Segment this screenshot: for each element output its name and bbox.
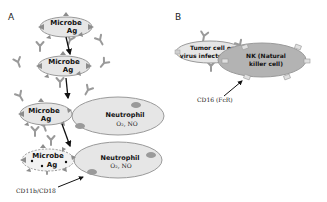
microbe-antigen-3: Microbe Ag [18,98,72,126]
svg-text:Neutrophil: Neutrophil [106,111,145,119]
svg-text:Microbe: Microbe [48,58,80,66]
cd16-caption: CD16 (FcR) [197,96,233,103]
microbe-antigen-2: Microbe Ag [36,51,92,78]
neutrophil-1: Neutrophil O₂, NO [72,97,164,135]
microbe-antigen-1: Microbe Ag [38,12,94,39]
svg-text:Microbe: Microbe [50,19,82,27]
panel-a-label: A [8,12,15,22]
cd11b-caption: CD11b/CD18 [16,187,56,194]
svg-text:Ag: Ag [47,161,57,169]
arrow [66,78,68,98]
svg-text:O₂, NO: O₂, NO [110,162,131,169]
svg-text:Microbe: Microbe [28,107,60,115]
svg-text:killer cell): killer cell) [249,60,283,67]
arrow [58,177,83,187]
svg-text:Neutrophil: Neutrophil [101,154,140,162]
svg-text:Ag: Ag [41,115,51,123]
svg-text:NK (Natural: NK (Natural [246,52,286,59]
svg-text:Ag: Ag [67,27,77,35]
nk-cell: NK (Natural killer cell) [218,43,310,80]
microbe-antigen-4: Microbe Ag [20,144,76,172]
immune-diagram: A Microbe Ag Microbe Ag Neutrophil O₂, [0,0,327,202]
panel-b-label: B [175,12,181,22]
arrow [224,81,242,96]
arrow [62,124,70,146]
svg-text:O₂, NO: O₂, NO [116,120,137,127]
svg-text:Ag: Ag [63,66,73,74]
svg-text:Microbe: Microbe [32,152,64,160]
neutrophil-2: Neutrophil O₂, NO [74,142,162,178]
